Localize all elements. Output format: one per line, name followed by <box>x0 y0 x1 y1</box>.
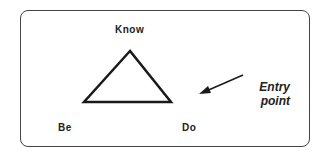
entry-point-line1: Entry <box>240 80 290 94</box>
label-do: Do <box>182 122 196 133</box>
triangle-shape <box>84 51 171 102</box>
label-know: Know <box>115 24 144 35</box>
entry-arrow-icon <box>199 75 243 94</box>
label-be: Be <box>58 122 72 133</box>
entry-point-line2: point <box>240 94 290 108</box>
entry-point-annotation: Entry point <box>240 80 290 108</box>
